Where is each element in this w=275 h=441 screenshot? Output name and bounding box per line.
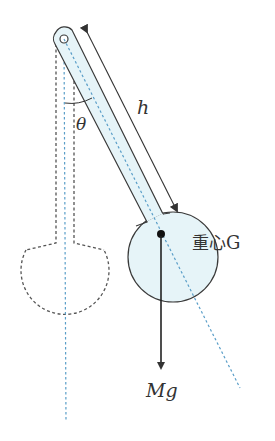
angle-theta-label: θ xyxy=(76,114,86,134)
rod xyxy=(53,27,163,222)
bob-circle xyxy=(128,212,218,302)
length-h-label: h xyxy=(137,96,149,118)
center-of-mass-label: 重心G xyxy=(192,232,240,253)
vertical-axis-line xyxy=(64,42,66,422)
center-of-mass-g-text: G xyxy=(226,232,240,253)
force-mg-label: Mg xyxy=(145,379,178,401)
rest-rod-left-edge xyxy=(26,44,56,250)
pendulum-diagram: θ h 重心G Mg xyxy=(0,0,275,441)
pendulum-axis-line xyxy=(64,39,240,388)
center-of-mass-cjk-text: 重心 xyxy=(192,233,226,253)
